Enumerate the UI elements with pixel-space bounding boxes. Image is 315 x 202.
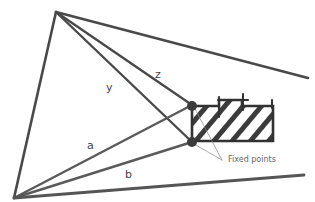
- label-y: y: [106, 82, 113, 93]
- lower-boundary-line: [14, 175, 304, 198]
- label-fixed-points: Fixed points: [228, 156, 276, 164]
- line-y: [56, 12, 192, 142]
- left-boundary-line: [14, 12, 56, 198]
- triangulation-diagram: [0, 0, 315, 202]
- fixed-point-lower: [187, 137, 197, 147]
- hatched-structure: [192, 94, 274, 142]
- label-z: z: [155, 69, 161, 80]
- line-z: [56, 12, 192, 105]
- label-b: b: [125, 169, 132, 180]
- upper-boundary-line: [56, 12, 308, 78]
- fixed-point-upper: [187, 101, 197, 111]
- label-a: a: [87, 140, 94, 151]
